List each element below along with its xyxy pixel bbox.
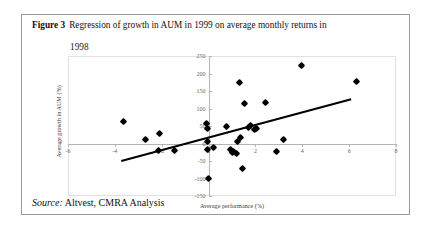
y-tick-label: -50 <box>185 158 206 164</box>
x-tick-label: -6 <box>66 148 71 154</box>
scatter-chart: -6-4-202468-150-100-50050100150200250 Av… <box>46 56 398 214</box>
source-text: Altvest, CMRA Analysis <box>65 197 165 208</box>
x-tick <box>396 144 397 147</box>
x-tick-label: -4 <box>112 148 117 154</box>
y-tick-label: 250 <box>185 53 206 59</box>
x-tick <box>349 144 350 147</box>
source-note: Source: Altvest, CMRA Analysis <box>32 197 164 208</box>
x-axis <box>68 144 396 145</box>
figure-number: Figure 3 <box>32 20 65 30</box>
source-label: Source: <box>32 197 63 208</box>
figure-caption: Figure 3Regression of growth in AUM in 1… <box>32 20 400 32</box>
y-tick <box>209 74 212 75</box>
plot-area <box>68 56 396 196</box>
figure-container: Figure 3Regression of growth in AUM in 1… <box>21 14 410 215</box>
y-tick-label: 200 <box>185 71 206 77</box>
x-tick-label: 8 <box>395 148 398 154</box>
x-tick-label: 2 <box>254 148 257 154</box>
x-tick <box>68 144 69 147</box>
y-tick-label: 150 <box>185 88 206 94</box>
y-tick <box>209 91 212 92</box>
y-tick <box>209 109 212 110</box>
figure-caption-line1: Regression of growth in AUM in 1999 on a… <box>69 20 326 30</box>
x-tick <box>115 144 116 147</box>
y-axis-title: Average growth in AUM (%) <box>55 66 62 178</box>
x-tick <box>255 144 256 147</box>
y-tick <box>209 161 212 162</box>
x-tick-label: 6 <box>348 148 351 154</box>
x-tick-label: 4 <box>301 148 304 154</box>
y-tick <box>209 56 212 57</box>
y-tick <box>209 196 212 197</box>
y-tick-label: -100 <box>185 176 206 182</box>
y-tick-label: 100 <box>185 106 206 112</box>
x-tick <box>302 144 303 147</box>
x-tick <box>162 144 163 147</box>
y-tick-label: -150 <box>185 193 206 199</box>
figure-caption-line2: 1998 <box>70 42 89 54</box>
